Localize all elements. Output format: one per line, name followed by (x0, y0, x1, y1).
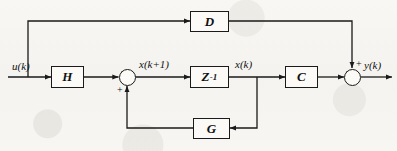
input-gain-block-h[interactable]: H (51, 66, 84, 88)
unit-delay-block[interactable]: Z-1 (190, 66, 229, 88)
signal-label-output: y(k) (364, 59, 381, 71)
output-sum-plus-sign: + (356, 58, 362, 69)
state-sum-plus-sign: + (117, 84, 123, 95)
output-summing-junction[interactable] (344, 69, 361, 86)
signal-label-state-next: x(k+1) (139, 58, 169, 70)
wire-g-to-state-sum (127, 86, 193, 128)
block-label-c: C (297, 69, 306, 85)
signal-label-state: x(k) (235, 58, 252, 70)
wire-state-to-g (230, 77, 257, 128)
block-label-z: Z (201, 69, 209, 85)
block-label-g: G (207, 121, 217, 137)
signal-label-input: u(k) (12, 60, 30, 72)
state-summing-junction[interactable] (119, 69, 136, 86)
block-diagram-canvas: H Z-1 C D G u(k) x(k+1) x(k) y(k) + + (0, 0, 397, 151)
block-label-z-exponent: -1 (210, 72, 218, 82)
feedforward-block-d[interactable]: D (190, 11, 229, 32)
block-label-h: H (62, 69, 72, 85)
output-gain-block-c[interactable]: C (285, 66, 318, 88)
block-label-d: D (205, 14, 215, 30)
feedback-block-g[interactable]: G (193, 118, 230, 139)
